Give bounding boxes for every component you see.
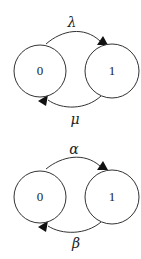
transition-1-to-0-edge — [48, 222, 101, 232]
diagram-canvas: 0 1 λ μ 0 1 α β — [0, 0, 141, 259]
state-1-label: 1 — [109, 189, 116, 204]
transition-0-to-1-edge — [46, 157, 100, 169]
state-1-label: 1 — [109, 63, 116, 78]
transition-0-to-1-edge — [46, 31, 100, 44]
transition-0-to-1-label: α — [69, 141, 79, 157]
transition-0-to-1-label: λ — [67, 14, 77, 30]
state-0-label: 0 — [37, 189, 44, 204]
markov-chain-bottom: 0 1 α β — [14, 141, 139, 251]
state-0-label: 0 — [37, 63, 44, 78]
transition-1-to-0-label: β — [71, 235, 80, 251]
arrowhead-icon — [97, 36, 108, 45]
transition-1-to-0-label: μ — [70, 111, 79, 127]
transition-1-to-0-edge — [48, 96, 101, 107]
markov-chain-top: 0 1 λ μ — [14, 14, 139, 127]
